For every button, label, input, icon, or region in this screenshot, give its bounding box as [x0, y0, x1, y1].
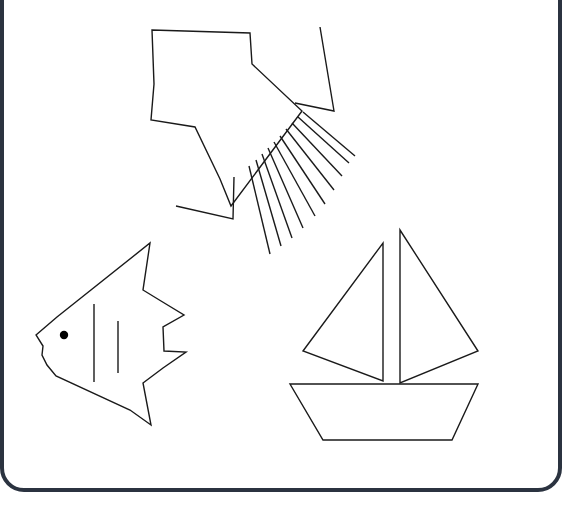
line-drawing-svg [0, 0, 575, 518]
drawing-canvas [0, 0, 575, 518]
angelfish-eye [60, 331, 68, 339]
page-background [0, 0, 575, 518]
